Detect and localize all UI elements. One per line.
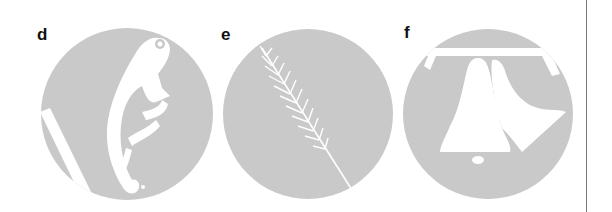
chameleon-silhouette-icon [40,28,213,205]
figure-graphics [0,0,612,212]
bells-silhouette-icon [400,29,580,199]
panel-divider [586,0,587,212]
wheat-ear-silhouette-icon [223,29,393,199]
